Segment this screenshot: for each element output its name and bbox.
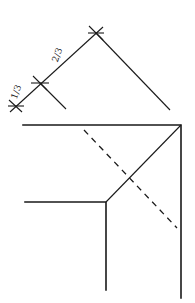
inner-corner-edge bbox=[25, 202, 106, 290]
miter-line bbox=[106, 125, 181, 202]
dashed-guide-line bbox=[84, 130, 177, 228]
label-two-thirds: 2/3 bbox=[50, 46, 64, 63]
miter-corner-diagram: 2/3 1/3 bbox=[0, 0, 195, 303]
projection-line-short bbox=[40, 83, 66, 109]
label-one-third: 1/3 bbox=[9, 83, 23, 100]
outer-corner-edge bbox=[23, 125, 181, 298]
projection-line-long bbox=[96, 33, 170, 110]
